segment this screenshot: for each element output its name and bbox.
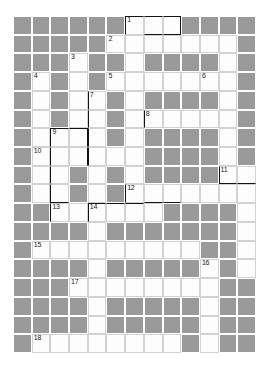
grid-cell-open[interactable] bbox=[219, 110, 238, 129]
grid-cell-open[interactable]: 6 bbox=[200, 72, 219, 91]
grid-cell-open[interactable] bbox=[200, 184, 219, 203]
grid-cell-open[interactable] bbox=[181, 110, 200, 129]
grid-cell-open[interactable] bbox=[88, 166, 107, 185]
grid-cell-open[interactable] bbox=[181, 184, 200, 203]
grid-cell-open[interactable]: 17 bbox=[69, 278, 88, 297]
grid-cell-open[interactable] bbox=[219, 53, 238, 72]
grid-cell-open[interactable] bbox=[32, 184, 51, 203]
grid-cell-open[interactable]: 3 bbox=[69, 53, 88, 72]
grid-cell-open[interactable] bbox=[88, 147, 107, 166]
grid-cell-open[interactable] bbox=[88, 241, 107, 260]
grid-cell-open[interactable] bbox=[200, 334, 219, 353]
grid-cell-open[interactable] bbox=[163, 35, 182, 54]
grid-cell-open[interactable] bbox=[88, 297, 107, 316]
grid-cell-open[interactable] bbox=[88, 316, 107, 335]
grid-cell-open[interactable] bbox=[88, 278, 107, 297]
grid-cell-open[interactable] bbox=[69, 334, 88, 353]
grid-cell-open[interactable] bbox=[50, 184, 69, 203]
grid-cell-open[interactable] bbox=[237, 222, 256, 241]
grid-cell-open[interactable] bbox=[144, 72, 163, 91]
grid-cell-open[interactable] bbox=[181, 35, 200, 54]
grid-cell-open[interactable] bbox=[32, 128, 51, 147]
grid-cell-open[interactable]: 11 bbox=[219, 166, 238, 185]
grid-cell-open[interactable] bbox=[106, 278, 125, 297]
grid-cell-open[interactable] bbox=[200, 297, 219, 316]
grid-cell-open[interactable] bbox=[32, 91, 51, 110]
grid-cell-open[interactable] bbox=[181, 278, 200, 297]
grid-cell-open[interactable] bbox=[163, 184, 182, 203]
grid-cell-open[interactable] bbox=[88, 184, 107, 203]
grid-cell-open[interactable] bbox=[50, 334, 69, 353]
grid-cell-open[interactable] bbox=[237, 259, 256, 278]
grid-cell-open[interactable] bbox=[181, 241, 200, 260]
grid-cell-open[interactable] bbox=[69, 91, 88, 110]
grid-cell-open[interactable] bbox=[200, 35, 219, 54]
grid-cell-open[interactable] bbox=[106, 241, 125, 260]
grid-cell-open[interactable] bbox=[125, 203, 144, 222]
grid-cell-open[interactable] bbox=[32, 166, 51, 185]
grid-cell-open[interactable]: 14 bbox=[88, 203, 107, 222]
grid-cell-open[interactable] bbox=[219, 184, 238, 203]
grid-cell-open[interactable] bbox=[219, 72, 238, 91]
grid-cell-open[interactable] bbox=[50, 241, 69, 260]
grid-cell-open[interactable] bbox=[125, 147, 144, 166]
grid-cell-open[interactable] bbox=[125, 278, 144, 297]
grid-cell-open[interactable] bbox=[163, 334, 182, 353]
grid-cell-open[interactable] bbox=[125, 128, 144, 147]
grid-cell-open[interactable] bbox=[125, 166, 144, 185]
grid-cell-open[interactable] bbox=[163, 16, 182, 35]
grid-cell-open[interactable] bbox=[200, 316, 219, 335]
grid-cell-open[interactable] bbox=[237, 184, 256, 203]
grid-cell-open[interactable] bbox=[237, 166, 256, 185]
grid-cell-open[interactable] bbox=[69, 147, 88, 166]
grid-cell-open[interactable] bbox=[219, 91, 238, 110]
grid-cell-open[interactable] bbox=[144, 203, 163, 222]
crossword-grid[interactable]: 123456789101112131415161718 bbox=[13, 16, 256, 353]
grid-cell-open[interactable] bbox=[125, 334, 144, 353]
grid-cell-open[interactable] bbox=[69, 241, 88, 260]
grid-cell-open[interactable] bbox=[125, 72, 144, 91]
grid-cell-open[interactable] bbox=[125, 91, 144, 110]
grid-cell-open[interactable]: 2 bbox=[106, 35, 125, 54]
grid-cell-open[interactable] bbox=[163, 241, 182, 260]
grid-cell-open[interactable] bbox=[125, 241, 144, 260]
grid-cell-open[interactable]: 7 bbox=[88, 91, 107, 110]
grid-cell-open[interactable] bbox=[200, 278, 219, 297]
grid-cell-open[interactable]: 12 bbox=[125, 184, 144, 203]
grid-cell-open[interactable] bbox=[237, 241, 256, 260]
grid-cell-open[interactable]: 9 bbox=[50, 128, 69, 147]
grid-cell-open[interactable] bbox=[69, 72, 88, 91]
grid-cell-open[interactable]: 10 bbox=[32, 147, 51, 166]
grid-cell-open[interactable] bbox=[50, 166, 69, 185]
grid-cell-open[interactable] bbox=[144, 241, 163, 260]
grid-cell-open[interactable] bbox=[50, 147, 69, 166]
grid-cell-open[interactable] bbox=[144, 16, 163, 35]
grid-cell-open[interactable] bbox=[125, 110, 144, 129]
grid-cell-open[interactable] bbox=[69, 203, 88, 222]
grid-cell-open[interactable]: 4 bbox=[32, 72, 51, 91]
grid-cell-open[interactable] bbox=[144, 278, 163, 297]
grid-cell-open[interactable] bbox=[69, 128, 88, 147]
grid-cell-open[interactable] bbox=[219, 35, 238, 54]
grid-cell-open[interactable] bbox=[88, 110, 107, 129]
grid-cell-open[interactable] bbox=[144, 184, 163, 203]
grid-cell-open[interactable]: 16 bbox=[200, 259, 219, 278]
grid-cell-open[interactable] bbox=[200, 110, 219, 129]
grid-cell-open[interactable] bbox=[88, 128, 107, 147]
grid-cell-open[interactable] bbox=[88, 222, 107, 241]
grid-cell-open[interactable] bbox=[237, 203, 256, 222]
grid-cell-open[interactable]: 1 bbox=[125, 16, 144, 35]
grid-cell-open[interactable] bbox=[32, 110, 51, 129]
grid-cell-open[interactable] bbox=[106, 147, 125, 166]
grid-cell-open[interactable]: 15 bbox=[32, 241, 51, 260]
grid-cell-open[interactable] bbox=[88, 334, 107, 353]
grid-cell-open[interactable] bbox=[144, 334, 163, 353]
grid-cell-open[interactable] bbox=[69, 110, 88, 129]
grid-cell-open[interactable] bbox=[106, 334, 125, 353]
grid-cell-open[interactable]: 18 bbox=[32, 334, 51, 353]
grid-cell-open[interactable] bbox=[163, 110, 182, 129]
grid-cell-open[interactable] bbox=[106, 203, 125, 222]
grid-cell-open[interactable]: 5 bbox=[106, 72, 125, 91]
grid-cell-open[interactable] bbox=[219, 128, 238, 147]
grid-cell-open[interactable] bbox=[125, 53, 144, 72]
